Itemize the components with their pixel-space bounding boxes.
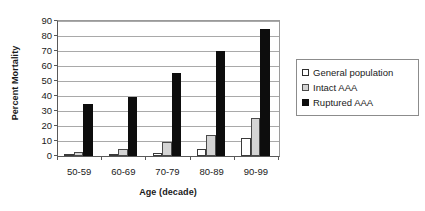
x-axis-tick-label: 50-59 — [56, 166, 102, 178]
x-axis-tick-mark — [57, 156, 58, 160]
x-axis-tick-mark — [190, 156, 191, 160]
legend-item-label: Ruptured AAA — [313, 97, 373, 108]
x-axis-tick-label: 90-99 — [233, 166, 279, 178]
x-axis-tick-mark — [145, 156, 146, 160]
legend-item-label: General population — [313, 67, 393, 78]
bar-ruptured — [83, 104, 93, 157]
bar-intact — [251, 118, 261, 156]
bar-ruptured — [260, 29, 270, 157]
x-axis-tick-labels: 50-5960-6970-7980-8990-99 — [57, 166, 279, 180]
y-axis-tick-labels: 0102030405060708090 — [26, 14, 52, 156]
x-axis-tick-label: 60-69 — [100, 166, 146, 178]
y-axis-tick-label: 0 — [26, 151, 52, 160]
bars-layer — [58, 21, 279, 156]
y-axis-tick-label: 40 — [26, 91, 52, 100]
bar-group — [146, 21, 190, 156]
legend-item: Intact AAA — [302, 80, 414, 95]
x-axis-tick-label: 80-89 — [189, 166, 235, 178]
plot-area — [57, 20, 280, 157]
legend-item-label: Intact AAA — [313, 82, 357, 93]
y-axis-tick-label: 80 — [26, 31, 52, 40]
chart-legend: General populationIntact AAARuptured AAA — [296, 59, 419, 116]
bar-chart-figure: Percent Mortality 0102030405060708090 50… — [0, 0, 425, 211]
y-axis-tick-label: 30 — [26, 106, 52, 115]
x-axis-tick-mark — [101, 156, 102, 160]
bar-group — [102, 21, 146, 156]
bar-ruptured — [128, 97, 138, 156]
y-axis-tick-label: 10 — [26, 136, 52, 145]
bar-ruptured — [216, 51, 226, 156]
bar-intact — [206, 135, 216, 156]
x-axis-tick-mark — [278, 156, 279, 160]
x-axis-title: Age (decade) — [57, 187, 279, 197]
legend-item: General population — [302, 65, 414, 80]
x-axis-tick-marks — [57, 156, 279, 161]
bar-intact — [118, 149, 128, 157]
y-axis-tick-label: 90 — [26, 16, 52, 25]
legend-swatch-icon — [302, 84, 309, 91]
y-axis-tick-label: 50 — [26, 76, 52, 85]
bar-intact — [162, 142, 172, 156]
bar-group — [235, 21, 279, 156]
legend-swatch-icon — [302, 69, 309, 76]
legend-swatch-icon — [302, 99, 309, 106]
bar-ruptured — [172, 73, 182, 156]
x-axis-tick-mark — [234, 156, 235, 160]
bar-group — [191, 21, 235, 156]
bar-general — [197, 149, 207, 156]
y-axis-tick-label: 70 — [26, 46, 52, 55]
y-axis-tick-label: 60 — [26, 61, 52, 70]
legend-item: Ruptured AAA — [302, 95, 414, 110]
y-axis-title: Percent Mortality — [8, 28, 22, 138]
x-axis-tick-label: 70-79 — [145, 166, 191, 178]
bar-group — [58, 21, 102, 156]
y-axis-tick-label: 20 — [26, 121, 52, 130]
y-axis-title-text: Percent Mortality — [10, 46, 20, 121]
bar-general — [241, 138, 251, 156]
